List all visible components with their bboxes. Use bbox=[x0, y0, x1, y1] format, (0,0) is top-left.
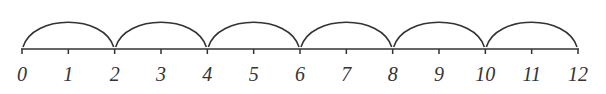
tick-label: 8 bbox=[388, 63, 398, 85]
tick-label: 11 bbox=[522, 63, 541, 85]
jump-arc bbox=[394, 22, 485, 47]
jump-arc bbox=[486, 22, 577, 47]
jump-arc bbox=[301, 22, 392, 47]
tick-label: 10 bbox=[475, 63, 495, 85]
number-line-diagram: 0123456789101112 bbox=[0, 0, 606, 94]
jump-arc bbox=[116, 22, 207, 47]
jump-arc bbox=[23, 22, 114, 47]
tick-labels: 0123456789101112 bbox=[17, 63, 588, 85]
tick-label: 7 bbox=[341, 63, 352, 85]
tick-label: 3 bbox=[155, 63, 166, 85]
tick-label: 6 bbox=[295, 63, 305, 85]
jump-arc bbox=[208, 22, 299, 47]
tick-label: 9 bbox=[434, 63, 444, 85]
tick-label: 2 bbox=[110, 63, 120, 85]
tick-label: 5 bbox=[249, 63, 259, 85]
tick-label: 1 bbox=[63, 63, 73, 85]
tick-label: 4 bbox=[202, 63, 212, 85]
tick-label: 12 bbox=[568, 63, 588, 85]
tick-label: 0 bbox=[17, 63, 27, 85]
jump-arcs bbox=[23, 22, 577, 47]
